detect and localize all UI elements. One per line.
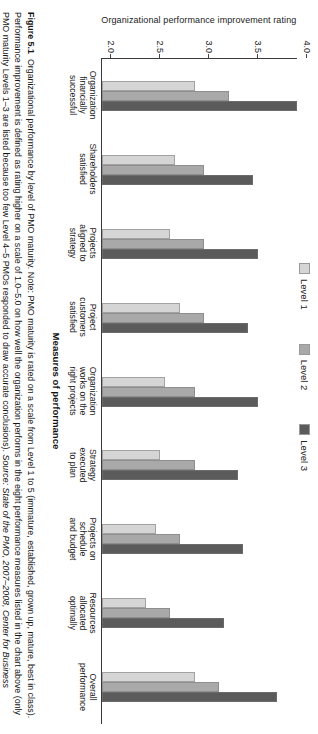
y-tick-2.5: 2.5 <box>155 40 165 53</box>
y-axis-ticks: 2.02.53.03.54.0 <box>101 32 297 58</box>
bar-level-2[interactable] <box>102 165 204 175</box>
figure-caption: Figure 5.1 Organizational performance by… <box>0 10 37 724</box>
y-tick-3.0: 3.0 <box>204 40 214 53</box>
figure-page: Level 1 Level 2 Level 3 Organizational p… <box>0 0 318 734</box>
bar-level-3[interactable] <box>102 249 258 259</box>
bar-level-3[interactable] <box>102 618 224 628</box>
bar-group <box>102 59 297 133</box>
y-axis-title-wrap: Organizational performance improvement r… <box>101 10 297 32</box>
bar-group <box>102 502 297 576</box>
chart-legend: Level 1 Level 2 Level 3 <box>299 10 310 724</box>
legend-label-level-3: Level 3 <box>299 440 310 471</box>
x-axis-title: Measures of performance <box>51 58 62 724</box>
bar-level-3[interactable] <box>102 175 253 185</box>
figure-caption-main: Organizational performance by level of P… <box>26 59 36 269</box>
bar-level-3[interactable] <box>102 692 278 702</box>
bar-level-1[interactable] <box>102 303 180 313</box>
bar-level-1[interactable] <box>102 155 175 165</box>
bar-level-3[interactable] <box>102 470 239 480</box>
rotated-page-wrapper: Level 1 Level 2 Level 3 Organizational p… <box>0 0 318 734</box>
category-label: Shareholderssatisfied <box>68 132 98 206</box>
x-axis-category-labels: OrganizationfinanciallysuccessfulShareho… <box>68 58 98 724</box>
category-label: Organizationfinanciallysuccessful <box>68 58 98 132</box>
bar-group <box>102 650 297 724</box>
category-label: Projects onscheduleand budget <box>68 502 98 576</box>
y-tick-4.0: 4.0 <box>302 40 312 53</box>
y-tick-mark <box>306 54 307 58</box>
category-label: Projectcustomerssatisfied <box>68 280 98 354</box>
bar-level-1[interactable] <box>102 524 156 534</box>
bar-group <box>102 428 297 502</box>
bar-level-1[interactable] <box>102 598 146 608</box>
bar-level-1[interactable] <box>102 229 170 239</box>
legend-item-level-2[interactable]: Level 2 <box>299 344 310 391</box>
plot-area <box>101 58 297 724</box>
bar-level-3[interactable] <box>102 397 258 407</box>
bar-level-1[interactable] <box>102 672 195 682</box>
category-label: Strategyexecutedto plan <box>68 428 98 502</box>
bar-level-2[interactable] <box>102 313 204 323</box>
y-axis-title: Organizational performance improvement r… <box>101 16 296 26</box>
bar-level-2[interactable] <box>102 608 170 618</box>
bar-level-1[interactable] <box>102 450 161 460</box>
bar-level-2[interactable] <box>102 239 204 249</box>
figure-source-label: Source: <box>1 455 11 486</box>
bar-level-1[interactable] <box>102 81 195 91</box>
bar-level-3[interactable] <box>102 544 243 554</box>
bar-group <box>102 576 297 650</box>
bar-level-2[interactable] <box>102 91 229 101</box>
bar-level-1[interactable] <box>102 377 165 387</box>
bar-level-2[interactable] <box>102 534 180 544</box>
category-label: Resourcesallocatedoptimally <box>68 576 98 650</box>
bar-group <box>102 133 297 207</box>
legend-label-level-1: Level 1 <box>299 279 310 310</box>
legend-item-level-1[interactable]: Level 1 <box>299 263 310 310</box>
legend-label-level-2: Level 2 <box>299 360 310 391</box>
bar-level-2[interactable] <box>102 682 219 692</box>
category-label: Overallperformance <box>68 650 98 724</box>
legend-item-level-3[interactable]: Level 3 <box>299 424 310 471</box>
category-label: Projectsaligned tostrategy <box>68 206 98 280</box>
figure-number: Figure 5.1 <box>26 12 36 54</box>
legend-swatch-level-3 <box>299 424 310 435</box>
bar-level-2[interactable] <box>102 460 195 470</box>
bar-level-3[interactable] <box>102 101 297 111</box>
bar-chart: Organizational performance improvement r… <box>101 10 297 724</box>
legend-swatch-level-1 <box>299 263 310 274</box>
category-label: Organizationworks on theright projects <box>68 354 98 428</box>
y-tick-2.0: 2.0 <box>106 40 116 53</box>
bar-group <box>102 355 297 429</box>
bar-level-3[interactable] <box>102 323 248 333</box>
bar-group <box>102 281 297 355</box>
legend-swatch-level-2 <box>299 344 310 355</box>
bar-level-2[interactable] <box>102 387 195 397</box>
bar-group <box>102 207 297 281</box>
y-tick-3.5: 3.5 <box>253 40 263 53</box>
